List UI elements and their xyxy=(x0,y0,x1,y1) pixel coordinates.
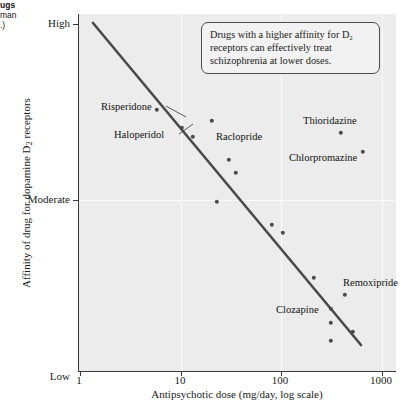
drug-label-chlorpromazine: Chlorpromazine xyxy=(289,152,357,163)
drug-label-raclopride: Raclopride xyxy=(216,131,262,142)
figure-canvas: ugsman.) HighModerateLow 1101001000 Affi… xyxy=(0,0,409,405)
drug-label-clozapine: Clozapine xyxy=(276,304,319,315)
x-tick-label-1000: 1000 xyxy=(370,374,392,386)
x-tick-label-10: 10 xyxy=(175,374,186,386)
y-tick-label-low: Low xyxy=(0,370,70,382)
annotation-callout: Drugs with a higher affinity for D₂ rece… xyxy=(201,22,380,74)
drug-label-thioridazine: Thioridazine xyxy=(303,115,357,126)
y-tick-label-moderate: Moderate xyxy=(0,193,70,205)
x-tick-label-100: 100 xyxy=(272,374,289,386)
drug-label-remoxipride: Remoxipride xyxy=(343,277,398,288)
y-tick-label-high: High xyxy=(0,17,70,29)
drug-label-risperidone: Risperidone xyxy=(101,101,152,112)
x-axis-title: Antipsychotic dose (mg/day, log scale) xyxy=(78,388,396,400)
drug-label-haloperidol: Haloperidol xyxy=(114,129,164,140)
y-axis-title: Affinity of drug for dopamine D2 recepto… xyxy=(20,68,34,318)
